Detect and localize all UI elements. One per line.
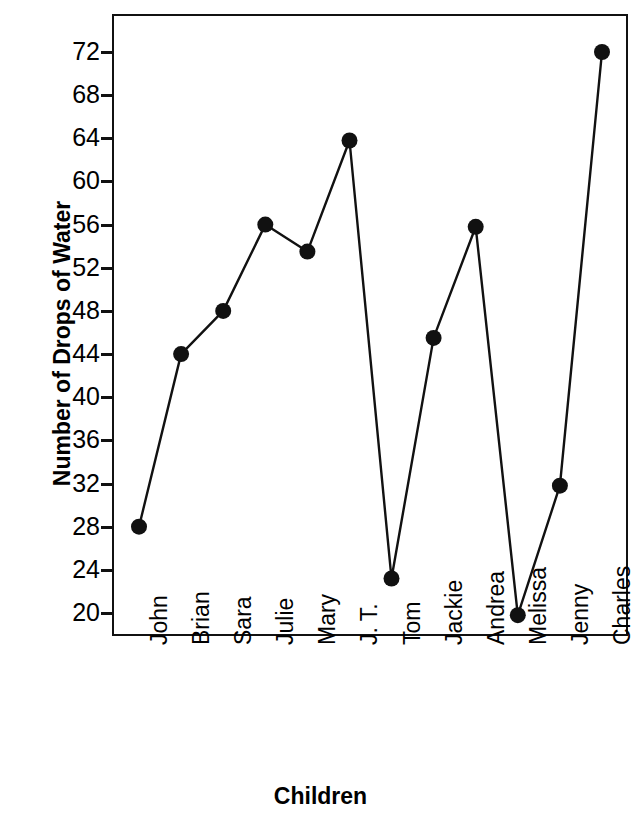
x-axis-tick-label: Jackie	[443, 525, 466, 645]
x-axis-tick-label: J. T.	[358, 525, 381, 645]
x-axis-tick-label: Mary	[316, 525, 339, 645]
x-axis-tick-label: John	[148, 525, 171, 645]
x-axis-tick-label: Julie	[274, 525, 297, 645]
line-chart-figure: Number of Drops of Water 726864605652484…	[0, 0, 641, 827]
x-axis-tick-label: Charles	[611, 525, 634, 645]
x-axis-tick-label: Andrea	[485, 525, 508, 645]
x-axis-tick-label: Jenny	[569, 525, 592, 645]
x-axis-tick-label: Melissa	[527, 525, 550, 645]
x-axis-tick-label: Brian	[190, 525, 213, 645]
x-axis-tick-label: Sara	[232, 525, 255, 645]
x-axis-tick-label: Tom	[401, 525, 424, 645]
x-axis-title: Children	[0, 783, 641, 810]
x-axis-tick-labels: JohnBrianSaraJulieMaryJ. T.TomJackieAndr…	[0, 0, 641, 827]
